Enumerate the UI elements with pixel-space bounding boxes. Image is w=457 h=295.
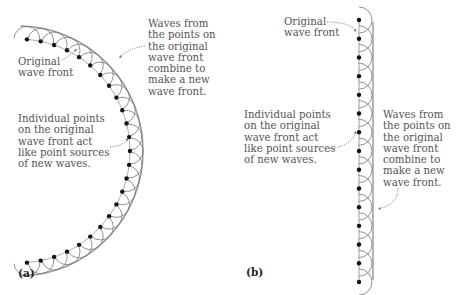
source-dot — [357, 261, 361, 265]
fig-b-waves-label: Waves from the points on the original wa… — [383, 109, 451, 188]
arrow-original-b-head — [354, 29, 357, 32]
fig-a-points-label: Individual points on the original wave f… — [18, 113, 110, 169]
source-dot — [65, 48, 69, 52]
source-dot — [357, 149, 361, 153]
fig-b-original-label: Original wave front — [284, 16, 339, 39]
source-dot — [357, 280, 361, 284]
source-dot — [128, 149, 132, 153]
source-dot — [357, 242, 361, 246]
arrow-points-b-head — [354, 131, 357, 134]
arrow-waves-a-head — [119, 55, 122, 58]
source-dot — [39, 258, 43, 262]
source-dot — [357, 55, 361, 59]
fig-a-panel-label: (a) — [18, 267, 35, 279]
source-dot — [357, 18, 361, 22]
source-dot — [357, 224, 361, 228]
source-dot — [357, 37, 361, 41]
arrow-points-a — [110, 140, 127, 147]
arrow-waves-b-head — [378, 207, 381, 210]
source-dot — [52, 255, 56, 259]
source-dot — [357, 186, 361, 190]
source-dot — [25, 260, 29, 264]
source-dot — [124, 121, 128, 125]
arrow-waves-a — [121, 46, 145, 56]
huygens-diagram: Original wave front Waves from the point… — [0, 0, 457, 295]
source-dot — [357, 74, 361, 78]
fig-a-waves-label: Waves from the points on the original wa… — [148, 18, 216, 97]
fig-a-original-label: Original wave front — [18, 56, 73, 79]
fig-b-panel-label: (b) — [246, 266, 263, 278]
source-dot — [357, 205, 361, 209]
source-dot — [120, 108, 124, 112]
arrow-waves-b — [381, 188, 398, 208]
source-dot — [357, 93, 361, 97]
fig-b-points-label: Individual points on the original wave f… — [244, 109, 336, 165]
source-dot — [357, 111, 361, 115]
source-dot — [357, 130, 361, 134]
source-dot — [357, 168, 361, 172]
